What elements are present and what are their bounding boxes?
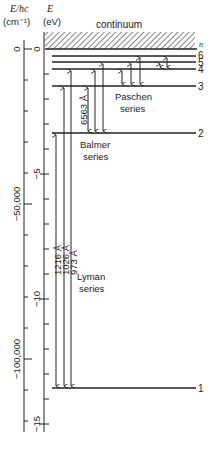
left-tick-0: 0	[11, 46, 22, 51]
balmer-series-label-1: Balmer	[80, 139, 110, 150]
level-2-label: 2	[198, 128, 204, 139]
lyman-transitions	[56, 71, 71, 386]
right-tick-0: 0	[31, 46, 42, 51]
left-axis-label: E/hc	[9, 3, 29, 14]
energy-level-diagram: E/hc (cm⁻¹) E (eV) continuum n 0 −50,000…	[0, 0, 213, 449]
right-axis-unit: (eV)	[43, 16, 61, 27]
level-1-label: 1	[198, 383, 204, 394]
right-tick-10: −10	[31, 291, 42, 307]
right-tick-15: −15	[31, 416, 42, 432]
lyman-series-label-1: Lyman	[77, 271, 105, 282]
balmer-series-label-2: series	[83, 151, 109, 162]
level-4-label: 4	[198, 64, 204, 75]
left-tick-100000: −100,000	[11, 339, 22, 379]
left-axis: 0 −50,000 −100,000	[11, 40, 32, 432]
n-label: n	[199, 40, 203, 49]
balmer-transitions	[88, 64, 103, 131]
diagram-svg: E/hc (cm⁻¹) E (eV) continuum n 0 −50,000…	[0, 0, 213, 449]
lyman-series-label-2: series	[79, 283, 105, 294]
level-3-label: 3	[198, 81, 204, 92]
right-tick-5: −5	[31, 169, 42, 180]
paschen-series-label-2: series	[120, 103, 146, 114]
continuum-hatch	[45, 32, 195, 49]
left-tick-50000: −50,000	[11, 187, 22, 222]
balmer-wavelength-6563: 6563 Å	[78, 94, 89, 125]
left-axis-unit: (cm⁻¹)	[3, 16, 30, 27]
right-axis-label: E	[46, 3, 53, 14]
right-axis: 0 −5 −10 −15	[31, 32, 49, 432]
continuum-label: continuum	[96, 19, 142, 30]
paschen-series-label-1: Paschen	[115, 91, 152, 102]
